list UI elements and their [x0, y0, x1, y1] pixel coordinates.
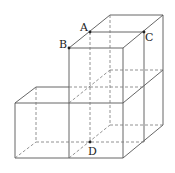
point-d [89, 141, 92, 144]
label-c: C [145, 31, 153, 44]
label-a: A [79, 21, 89, 34]
cube-diagram: A B C D [0, 0, 175, 173]
point-a [89, 31, 92, 34]
label-b: B [59, 38, 67, 51]
point-b [68, 47, 71, 50]
label-d: D [88, 145, 97, 158]
hidden-edges [15, 15, 163, 158]
